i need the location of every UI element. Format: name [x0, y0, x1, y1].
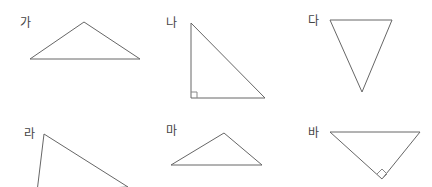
triangles-canvas: [0, 0, 432, 187]
triangle-ba: [330, 132, 420, 179]
triangle-da: [330, 20, 392, 92]
triangle-ga: [30, 22, 140, 59]
triangle-ma: [171, 133, 262, 165]
right-angle-mark-na: [191, 92, 197, 98]
triangle-na: [191, 23, 265, 98]
triangle-ra: [37, 134, 128, 187]
